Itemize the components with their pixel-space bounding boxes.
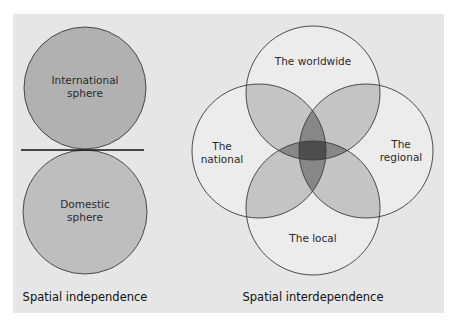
national-label-1: The (211, 140, 232, 152)
national-label-2: national (201, 153, 244, 165)
regional-label-2: regional (380, 151, 423, 163)
spatial-interdependence-caption: Spatial interdependence (243, 290, 384, 304)
spatial-independence-diagram: International sphere Domestic sphere Spa… (21, 27, 147, 304)
international-label-1: International (51, 74, 118, 86)
international-label-2: sphere (67, 87, 103, 99)
spatial-independence-caption: Spatial independence (23, 290, 148, 304)
domestic-label-2: sphere (67, 211, 103, 223)
local-label: The local (288, 232, 336, 244)
spatial-interdependence-diagram: The worldwide The national The regional … (192, 26, 433, 304)
regional-label-1: The (390, 138, 411, 150)
domestic-label-1: Domestic (60, 198, 110, 210)
diagram-canvas: International sphere Domestic sphere Spa… (0, 0, 458, 326)
worldwide-label: The worldwide (274, 55, 351, 67)
